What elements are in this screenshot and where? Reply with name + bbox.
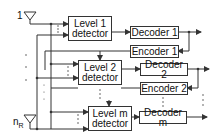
antenna-1-icon <box>24 12 36 24</box>
decoder-2-block: Decoder 2 <box>140 63 188 76</box>
decoder-m-block: Decoder m <box>139 111 187 124</box>
detector-label-line2: detector <box>82 73 118 83</box>
detector-label-line2: detector <box>92 119 128 129</box>
level-2-detector-block: Level 2 detector <box>78 60 122 85</box>
antenna-nr-icon <box>24 115 36 129</box>
antenna-nr-label-sub: R <box>19 122 24 129</box>
decoder-1-block: Decoder 1 <box>130 26 179 39</box>
antenna-nr-label: nR <box>13 117 24 128</box>
detector-label-line1: Level m <box>92 109 127 119</box>
encoder-1-block: Encoder 1 <box>130 45 179 58</box>
encoder-2-block: Encoder 2 <box>140 82 188 95</box>
antenna-nr-label-main: n <box>13 116 19 127</box>
detector-label-line2: detector <box>72 29 108 39</box>
detector-label-line1: Level 1 <box>74 19 106 29</box>
level-m-detector-block: Level m detector <box>88 106 132 131</box>
detector-label-line1: Level 2 <box>84 63 116 73</box>
antenna-1-label: 1 <box>17 11 23 21</box>
level-1-detector-block: Level 1 detector <box>68 16 112 41</box>
